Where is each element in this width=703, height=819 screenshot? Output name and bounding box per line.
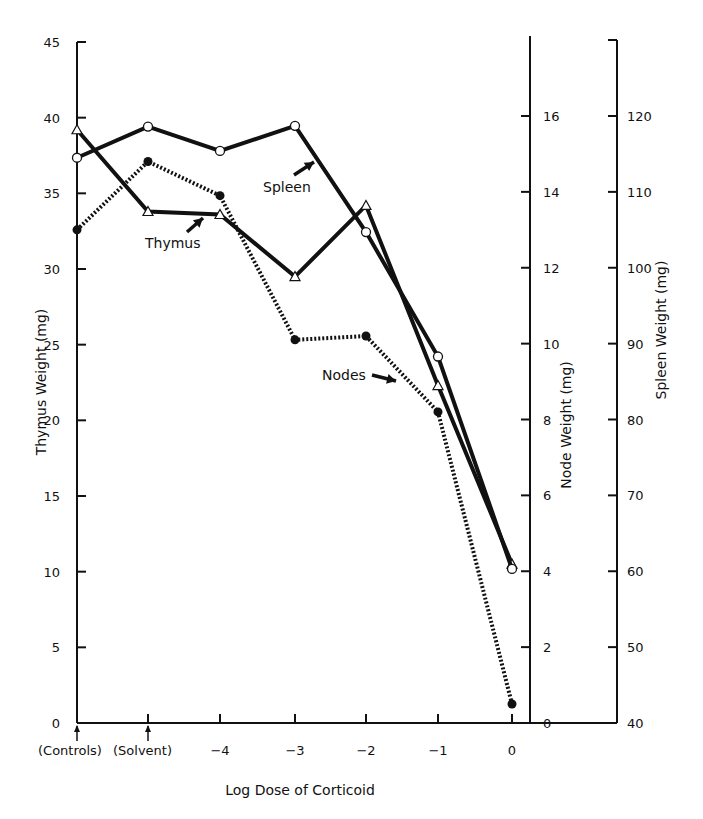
spleen-tick-label: 90 — [627, 337, 644, 352]
left-tick-label: 35 — [43, 186, 60, 201]
arrow-up-icon — [145, 725, 151, 732]
open-circle-marker — [144, 122, 153, 131]
open-circle-marker — [216, 146, 225, 155]
left-tick-label: 10 — [43, 565, 60, 580]
filled-circle-marker — [144, 157, 153, 166]
node-tick-label: 8 — [543, 413, 551, 428]
x-tick-label: (Solvent) — [113, 743, 172, 758]
filled-circle-marker — [73, 225, 82, 234]
node-tick-label: 6 — [543, 488, 551, 503]
nodes-annotation: Nodes — [322, 367, 366, 383]
left-tick-label: 5 — [52, 640, 60, 655]
filled-circle-marker — [362, 332, 371, 341]
spleen-tick-label: 50 — [627, 640, 644, 655]
open-circle-marker — [73, 153, 82, 162]
x-tick-label: −2 — [356, 743, 375, 758]
open-circle-marker — [362, 228, 371, 237]
open-triangle-marker — [72, 125, 82, 134]
open-triangle-marker — [361, 200, 371, 209]
filled-circle-marker — [434, 407, 443, 416]
spleen-tick-label: 80 — [627, 413, 644, 428]
left-tick-label: 15 — [43, 489, 60, 504]
spleen-tick-label: 40 — [627, 716, 644, 731]
x-tick-label: −1 — [428, 743, 447, 758]
spleen-tick-label: 120 — [627, 109, 652, 124]
x-tick-label: −3 — [285, 743, 304, 758]
spleen-tick-label: 70 — [627, 488, 644, 503]
nodes-line — [77, 162, 512, 705]
arrow-up-icon — [74, 725, 80, 732]
series — [72, 121, 517, 708]
left-tick-label: 30 — [43, 262, 60, 277]
x-tick-label: 0 — [508, 743, 516, 758]
node-tick-label: 14 — [543, 185, 560, 200]
node-tick-label: 10 — [543, 337, 560, 352]
spleen-tick-label: 110 — [627, 185, 652, 200]
x-axis-title: Log Dose of Corticoid — [225, 782, 375, 798]
node-axis-title: Node Weight (mg) — [558, 361, 574, 489]
open-circle-marker — [434, 352, 443, 361]
spleen-tick-label: 100 — [627, 261, 652, 276]
chart: 051015202530354045(Controls)(Solvent)−4−… — [0, 0, 703, 819]
filled-circle-marker — [291, 335, 300, 344]
spleen-tick-label: 60 — [627, 564, 644, 579]
node-tick-label: 2 — [543, 640, 551, 655]
node-tick-label: 12 — [543, 261, 560, 276]
x-tick-label: (Controls) — [38, 743, 102, 758]
spleen-annotation: Spleen — [263, 179, 311, 195]
open-circle-marker — [291, 121, 300, 130]
spleen-axis-title: Spleen Weight (mg) — [653, 261, 669, 400]
x-tick-label: −4 — [210, 743, 229, 758]
thymus-annotation: Thymus — [144, 235, 201, 251]
left-tick-label: 45 — [43, 35, 60, 50]
node-tick-label: 4 — [543, 564, 551, 579]
left-axis-title: Thymus Weight (mg) — [33, 309, 49, 457]
node-tick-label: 16 — [543, 109, 560, 124]
open-circle-marker — [508, 564, 517, 573]
left-tick-label: 0 — [52, 716, 60, 731]
filled-circle-marker — [216, 191, 225, 200]
filled-circle-marker — [508, 700, 517, 709]
left-tick-label: 40 — [43, 111, 60, 126]
